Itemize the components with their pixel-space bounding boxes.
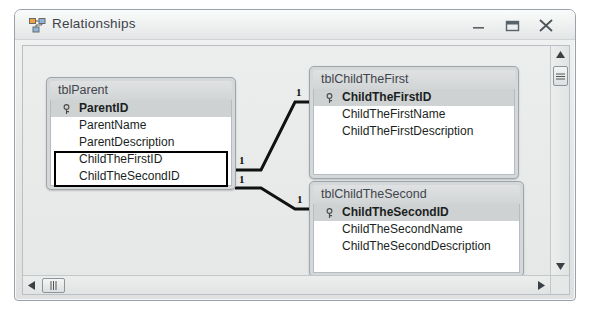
- field-name: ChildTheSecondDescription: [342, 239, 491, 253]
- field-name: ChildTheFirstID: [342, 90, 431, 104]
- table-fields-tblchildthefirst: ChildTheFirstID ChildTheFirstName ChildT…: [313, 89, 515, 175]
- table-title-tblparent: tblParent: [50, 81, 232, 100]
- field-name: ChildTheFirstID: [79, 152, 162, 166]
- field-row-childthesecondid[interactable]: ChildTheSecondID: [314, 204, 519, 221]
- table-card-tblparent[interactable]: tblParent ParentID ParentName: [46, 77, 236, 190]
- field-row-empty-3: [314, 255, 519, 272]
- field-name: ChildTheSecondName: [342, 222, 463, 236]
- field-row-childthesecondname[interactable]: ChildTheSecondName: [314, 221, 519, 238]
- field-row-parentname[interactable]: ParentName: [51, 117, 231, 134]
- cardinality-label-rel2-left: 1: [239, 173, 245, 185]
- scroll-left-icon[interactable]: [23, 277, 40, 294]
- field-row-parentid[interactable]: ParentID: [51, 100, 231, 117]
- cardinality-label-rel1-right: 1: [296, 86, 302, 98]
- table-fields-tblchildthesecond: ChildTheSecondID ChildTheSecondName Chil…: [313, 204, 520, 273]
- cardinality-label-rel1-left: 1: [239, 154, 245, 166]
- primary-key-icon: [61, 103, 72, 114]
- table-title-tblchildthesecond: tblChildTheSecond: [313, 185, 520, 204]
- scrollbar-corner: [550, 275, 569, 294]
- table-card-tblchildthefirst[interactable]: tblChildTheFirst ChildTheFirstID ChildTh…: [309, 66, 519, 179]
- field-row-parentdescription[interactable]: ParentDescription: [51, 134, 231, 151]
- relationships-icon: [29, 18, 46, 33]
- close-icon[interactable]: [533, 15, 559, 35]
- table-fields-tblparent: ParentID ParentName ParentDescription Ch…: [50, 100, 232, 186]
- scroll-down-icon[interactable]: [551, 258, 570, 275]
- field-name: ParentName: [79, 118, 146, 132]
- primary-key-icon: [324, 207, 335, 218]
- restore-icon[interactable]: [499, 15, 525, 35]
- field-row-childthefirstname[interactable]: ChildTheFirstName: [314, 106, 514, 123]
- minimize-icon[interactable]: [465, 15, 491, 35]
- field-row-empty-1: [314, 140, 514, 157]
- field-row-childthefirstid[interactable]: ChildTheFirstID: [51, 151, 231, 168]
- window-titlebar[interactable]: Relationships: [15, 10, 575, 40]
- cardinality-label-rel2-right: 1: [297, 193, 303, 205]
- field-name: ChildTheSecondID: [342, 205, 449, 219]
- table-card-tblchildthesecond[interactable]: tblChildTheSecond ChildTheSecondID Child…: [309, 181, 524, 275]
- relationships-canvas[interactable]: 1 1 1 1 tblParent ParentID: [23, 46, 550, 275]
- field-name: ParentID: [79, 101, 128, 115]
- vertical-scrollbar[interactable]: [550, 46, 569, 275]
- scroll-right-icon[interactable]: [533, 277, 550, 294]
- field-name: ParentDescription: [79, 135, 174, 149]
- field-row-childthefirstdescription[interactable]: ChildTheFirstDescription: [314, 123, 514, 140]
- relationships-window: Relationships: [14, 9, 576, 301]
- field-name: ChildTheFirstName: [342, 107, 445, 121]
- field-row-childthesecondid[interactable]: ChildTheSecondID: [51, 168, 231, 185]
- field-row-empty-2: [314, 157, 514, 174]
- table-title-tblchildthefirst: tblChildTheFirst: [313, 70, 515, 89]
- field-name: ChildTheFirstDescription: [342, 124, 473, 138]
- horizontal-scrollbar[interactable]: [23, 275, 550, 294]
- field-row-childthefirstid[interactable]: ChildTheFirstID: [314, 89, 514, 106]
- horizontal-scroll-thumb[interactable]: [42, 278, 65, 293]
- vertical-scroll-thumb[interactable]: [553, 66, 568, 86]
- field-name: ChildTheSecondID: [79, 169, 180, 183]
- window-title: Relationships: [52, 16, 136, 31]
- scroll-up-icon[interactable]: [551, 46, 570, 63]
- field-row-childtheseconddescription[interactable]: ChildTheSecondDescription: [314, 238, 519, 255]
- primary-key-icon: [324, 92, 335, 103]
- relationships-client-area: 1 1 1 1 tblParent ParentID: [22, 45, 570, 295]
